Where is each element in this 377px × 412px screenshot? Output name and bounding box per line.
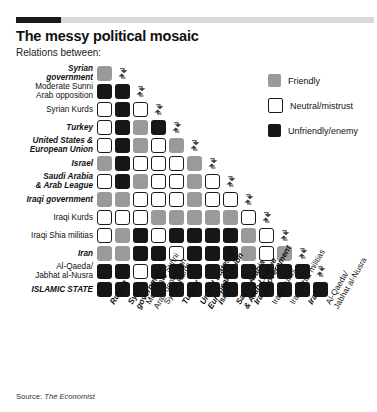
matrix-cell[interactable]	[115, 84, 130, 99]
matrix-row-label-text: Saudi Arabia& Arab League	[36, 173, 93, 190]
matrix-row: Israel	[0, 155, 377, 173]
matrix-cell[interactable]	[115, 156, 130, 171]
matrix-cell[interactable]	[115, 192, 130, 207]
matrix-cell[interactable]	[151, 120, 166, 135]
matrix-row-label-text: Iraqi government	[27, 196, 93, 205]
matrix-cell[interactable]	[133, 228, 148, 243]
page-subtitle: Relations between:	[16, 47, 101, 58]
matrix-cell[interactable]	[97, 156, 112, 171]
matrix-cell[interactable]	[133, 210, 148, 225]
matrix-cell[interactable]	[151, 138, 166, 153]
matrix-cell[interactable]	[205, 246, 220, 261]
matrix-cell[interactable]	[151, 192, 166, 207]
matrix-cell[interactable]	[133, 102, 148, 117]
matrix-cell[interactable]	[169, 210, 184, 225]
matrix-cell[interactable]	[151, 210, 166, 225]
matrix-cell[interactable]	[223, 192, 238, 207]
matrix-row-label-text: Iraqi Kurds	[53, 214, 93, 223]
matrix-cell[interactable]	[241, 210, 256, 225]
header-rule-accent	[16, 17, 61, 23]
matrix-cell[interactable]	[115, 228, 130, 243]
matrix-row-label: Saudi Arabia& Arab League	[1, 173, 93, 191]
matrix-cell[interactable]	[205, 174, 220, 189]
matrix-cell[interactable]	[169, 174, 184, 189]
matrix-row-label-text: ISLAMIC STATE	[31, 286, 93, 295]
matrix-cell[interactable]	[97, 264, 112, 279]
matrix-cell[interactable]	[133, 156, 148, 171]
matrix-cell[interactable]	[151, 174, 166, 189]
matrix-cell[interactable]	[205, 192, 220, 207]
matrix-cell[interactable]	[97, 66, 112, 81]
matrix-cell[interactable]	[187, 210, 202, 225]
matrix-cell[interactable]	[169, 138, 184, 153]
matrix-row-label: Al-Qaeda/Jabhat al-Nusra	[1, 263, 93, 281]
matrix-row-label: Iraqi government	[1, 191, 93, 209]
matrix-cell[interactable]	[151, 228, 166, 243]
matrix-cell[interactable]	[187, 174, 202, 189]
exchange-arrows-icon	[279, 229, 291, 242]
matrix-row-label: Israel	[1, 155, 93, 173]
matrix-cell[interactable]	[115, 210, 130, 225]
matrix-row: Iraqi government	[0, 191, 377, 209]
matrix-cell[interactable]	[133, 174, 148, 189]
page-title: The messy political mosaic	[16, 28, 199, 44]
source-name: The Economist	[44, 392, 95, 401]
matrix-row: Iraqi Shia militias	[0, 227, 377, 245]
matrix-cell[interactable]	[97, 228, 112, 243]
matrix-cell[interactable]	[115, 102, 130, 117]
matrix-row: Saudi Arabia& Arab League	[0, 173, 377, 191]
matrix-cell[interactable]	[97, 84, 112, 99]
matrix-cell[interactable]	[115, 138, 130, 153]
matrix-cell[interactable]	[223, 228, 238, 243]
matrix-cell[interactable]	[169, 192, 184, 207]
matrix-cell[interactable]	[187, 228, 202, 243]
matrix-cell[interactable]	[187, 246, 202, 261]
matrix-cell[interactable]	[151, 246, 166, 261]
matrix-cell[interactable]	[133, 120, 148, 135]
matrix-row-label-text: Moderate SunniArab opposition	[35, 83, 93, 100]
matrix-cell[interactable]	[187, 192, 202, 207]
source-prefix: Source:	[16, 392, 44, 401]
matrix-cell[interactable]	[97, 210, 112, 225]
exchange-arrows-icon	[243, 193, 255, 206]
matrix-cell[interactable]	[169, 156, 184, 171]
matrix-cell[interactable]	[133, 138, 148, 153]
matrix-row: Turkey	[0, 119, 377, 137]
matrix-cell[interactable]	[115, 174, 130, 189]
exchange-arrows-icon	[135, 85, 147, 98]
matrix-row-label: Iraqi Kurds	[1, 209, 93, 227]
matrix-cell[interactable]	[223, 210, 238, 225]
matrix-cell[interactable]	[259, 228, 274, 243]
matrix-row-label-text: Israel	[72, 160, 93, 169]
matrix-cell[interactable]	[241, 228, 256, 243]
infographic-page: The messy political mosaic Relations bet…	[0, 0, 377, 412]
matrix-row-label-text: Iraqi Shia militias	[31, 232, 93, 241]
matrix-row-label-text: Turkey	[66, 124, 93, 133]
matrix-cell[interactable]	[97, 102, 112, 117]
matrix-cell[interactable]	[187, 156, 202, 171]
matrix-cell[interactable]	[115, 264, 130, 279]
matrix-row: United States &European Union	[0, 137, 377, 155]
matrix-cell[interactable]	[97, 138, 112, 153]
matrix-cell[interactable]	[97, 174, 112, 189]
matrix-cell[interactable]	[97, 246, 112, 261]
matrix-cell[interactable]	[205, 210, 220, 225]
matrix-cell[interactable]	[205, 228, 220, 243]
matrix-cell[interactable]	[97, 192, 112, 207]
matrix-cell[interactable]	[133, 246, 148, 261]
matrix-cell[interactable]	[115, 246, 130, 261]
matrix-cell[interactable]	[133, 192, 148, 207]
matrix-cell[interactable]	[115, 120, 130, 135]
matrix-cell[interactable]	[97, 120, 112, 135]
exchange-arrows-icon	[153, 103, 165, 116]
exchange-arrows-icon	[261, 211, 273, 224]
matrix-row: Syriangovernment	[0, 65, 377, 83]
matrix-cell[interactable]	[151, 156, 166, 171]
matrix-row-label: Syrian Kurds	[1, 101, 93, 119]
matrix-cell[interactable]	[97, 282, 112, 297]
matrix-cell[interactable]	[169, 228, 184, 243]
exchange-arrows-icon	[297, 247, 309, 260]
matrix-row-label-text: Iran	[78, 250, 93, 259]
matrix-row-label-text: Syriangovernment	[46, 65, 93, 82]
matrix-row-label-text: Al-Qaeda/Jabhat al-Nusra	[35, 263, 93, 280]
